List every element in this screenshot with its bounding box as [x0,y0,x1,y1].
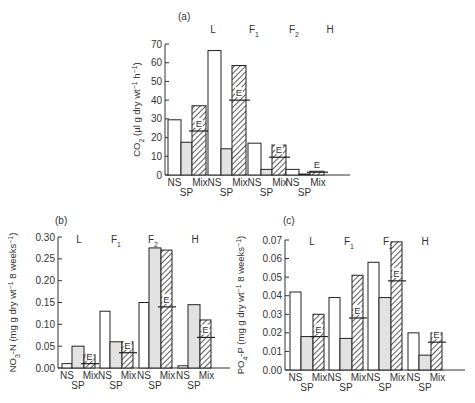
panel-label: (b) [55,215,67,226]
bar-mix [192,106,206,175]
y-tick-label: 0.05 [263,272,283,283]
group-label: H [326,24,333,35]
group-label: F2 [148,234,158,248]
y-tick-label: 0.03 [263,309,283,320]
x-tick-label-mix: Mix [390,372,406,383]
y-tick-label: 50 [151,76,163,87]
bar-ns [248,143,261,175]
expected-label: E [433,329,439,340]
group-label: F1 [249,24,259,38]
bar-sp [110,342,122,368]
chart-panel-b: (b)0.000.050.100.150.200.250.30NO3-N (mg… [7,215,231,391]
bar-ns [100,311,110,368]
x-tick-label-mix: Mix [312,372,328,383]
bar-ns [408,333,419,370]
chart-panel-a: (a)010203040506070CO2 (µl g dry wt−1 h−1… [131,11,351,198]
bar-sp [419,355,431,370]
expected-label: E [86,351,92,362]
group-label: L [76,234,82,245]
expected-label: E [315,324,321,335]
y-axis-label: NO3-N (mg g dry wt−1 8 weeks−1) [7,233,21,373]
bar-mix [232,66,246,175]
x-tick-label-mix: Mix [199,370,215,381]
bar-sp [299,174,310,175]
bar-ns [286,169,299,175]
y-tick-label: 0.07 [263,235,283,246]
bar-ns [290,292,301,370]
bar-ns [168,120,181,175]
x-tick-label-mix: Mix [430,372,446,383]
y-tick-label: 0.25 [36,253,56,264]
x-tick-label-sp: SP [180,187,194,198]
bar-mix [161,250,172,368]
y-tick-label: 0.05 [36,341,56,352]
y-axis-label: PO4-P (mg g dry wt−1 8 weeks−1) [235,236,249,375]
y-tick-label: 0.00 [36,363,56,374]
x-tick-label-mix: Mix [192,177,208,188]
group-label: L [210,24,216,35]
chart-panel-c: (c)0.000.010.020.030.040.050.060.07PO4-P… [235,215,466,393]
x-tick-label-sp: SP [378,382,392,393]
bar-ns [208,51,221,175]
x-tick-label-mix: Mix [160,370,176,381]
y-tick-label: 0.30 [36,232,56,243]
x-tick-label-sp: SP [339,382,353,393]
group-label: F1 [111,234,121,248]
bar-sp [340,338,352,370]
group-label: H [421,236,428,247]
y-tick-label: 0.15 [36,297,56,308]
bar-ns [178,366,188,368]
bar-mix [391,242,402,370]
panel-label: (c) [283,215,295,226]
group-label: L [309,236,315,247]
group-label: F2 [289,24,299,38]
y-tick-label: 30 [151,113,163,124]
x-tick-label-sp: SP [260,187,274,198]
expected-label: E [354,305,360,316]
bar-sp [221,149,232,175]
y-tick-label: 20 [151,132,163,143]
bar-sp [72,346,84,368]
expected-label: E [393,268,399,279]
y-tick-label: 0.06 [263,253,283,264]
x-tick-label-sp: SP [71,380,85,391]
y-tick-label: 70 [151,39,163,50]
group-label: F1 [344,236,354,250]
panel-label: (a) [178,11,190,22]
bar-sp [379,298,391,370]
x-tick-label-sp: SP [418,382,432,393]
bar-ns [368,262,379,370]
bar-sp [188,305,200,368]
x-tick-label-sp: SP [220,187,234,198]
y-tick-label: 60 [151,57,163,68]
x-tick-label-mix: Mix [83,370,99,381]
expected-label: E [276,144,282,155]
bar-ns [62,364,72,368]
x-tick-label-sp: SP [148,380,162,391]
bar-mix [352,275,363,370]
y-tick-label: 0.01 [263,346,283,357]
y-tick-label: 10 [151,151,163,162]
y-tick-label: 40 [151,95,163,106]
y-axis-label: CO2 (µl g dry wt−1 h−1) [131,62,145,157]
figure-three-panel-bar-charts: (a)010203040506070CO2 (µl g dry wt−1 h−1… [0,0,475,403]
x-tick-label-mix: Mix [232,177,248,188]
y-tick-label: 0.04 [263,290,283,301]
expected-label: E [236,87,242,98]
bar-ns [329,298,340,370]
x-tick-label-sp: SP [109,380,123,391]
expected-label: E [314,159,320,170]
y-tick-label: 0.10 [36,319,56,330]
x-tick-label-mix: Mix [121,370,137,381]
y-tick-label: 0 [156,170,162,181]
x-tick-label-mix: Mix [310,177,326,188]
x-tick-label-sp: SP [187,380,201,391]
bar-sp [261,169,272,175]
x-tick-label-sp: SP [300,382,314,393]
bar-sp [149,248,161,368]
bar-ns [139,303,149,369]
x-tick-label-mix: Mix [351,372,367,383]
y-tick-label: 0.02 [263,327,283,338]
x-tick-label-sp: SP [298,187,312,198]
y-tick-label: 0.00 [263,365,283,376]
